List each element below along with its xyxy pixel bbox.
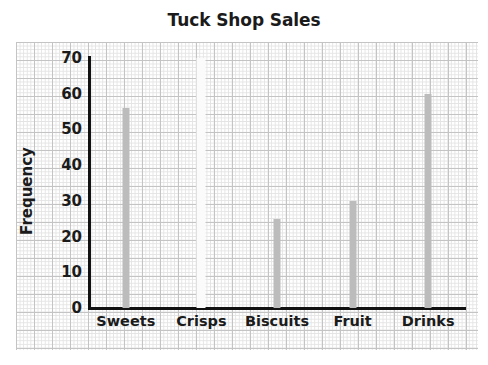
x-tick-sweets: Sweets — [88, 313, 164, 329]
y-tick-60: 60 — [56, 85, 82, 103]
bar-slot-sweets — [88, 58, 164, 308]
x-tick-fruit: Fruit — [315, 313, 391, 329]
bar-fruit — [349, 201, 356, 308]
y-tick-0: 0 — [56, 299, 82, 317]
y-tick-10: 10 — [56, 263, 82, 281]
plot-area — [88, 58, 466, 308]
x-tick-drinks: Drinks — [390, 313, 466, 329]
y-tick-30: 30 — [56, 192, 82, 210]
bar-sweets — [122, 108, 129, 308]
blank-band-crisps — [197, 58, 206, 308]
bar-slot-crisps — [164, 58, 240, 308]
x-tick-crisps: Crisps — [164, 313, 240, 329]
y-tick-40: 40 — [56, 156, 82, 174]
bar-slot-biscuits — [239, 58, 315, 308]
bar-slot-fruit — [315, 58, 391, 308]
y-tick-50: 50 — [56, 120, 82, 138]
y-tick-70: 70 — [56, 49, 82, 67]
bar-drinks — [425, 94, 432, 308]
y-tick-20: 20 — [56, 228, 82, 246]
x-tick-biscuits: Biscuits — [239, 313, 315, 329]
bar-slot-drinks — [390, 58, 466, 308]
bar-biscuits — [273, 219, 280, 308]
bar-chart-figure: Tuck Shop Sales Frequency 70 60 50 40 30… — [0, 0, 488, 365]
